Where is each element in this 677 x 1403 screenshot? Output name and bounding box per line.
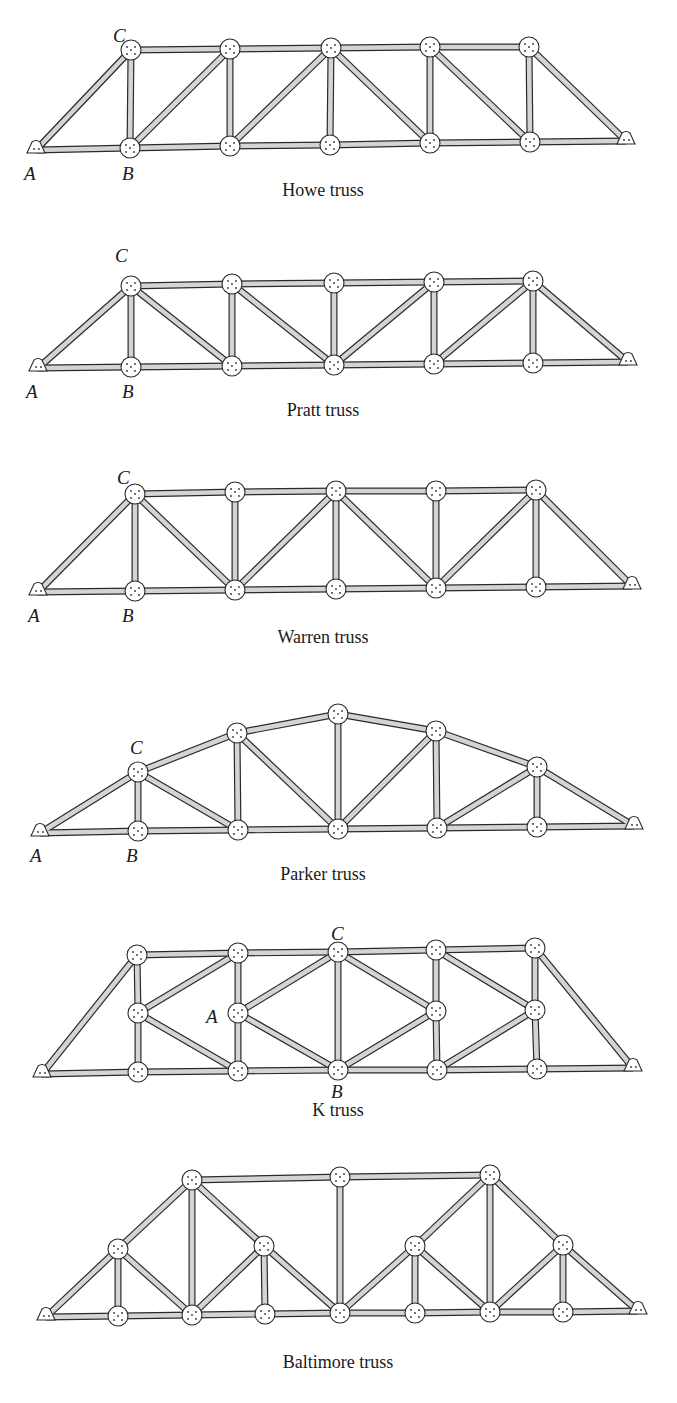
rivet-icon xyxy=(130,497,132,499)
truss-member xyxy=(415,1312,490,1313)
truss-member xyxy=(131,49,230,50)
rivet-icon xyxy=(234,491,236,493)
rivet-icon xyxy=(437,285,439,287)
rivet-icon xyxy=(539,583,541,585)
rivet-icon xyxy=(233,45,235,47)
rivet-icon xyxy=(241,956,243,958)
rivet-icon xyxy=(121,1245,123,1247)
truss-member xyxy=(46,1249,118,1317)
rivet-icon xyxy=(40,366,42,368)
rivet-icon xyxy=(326,51,328,53)
truss-member xyxy=(192,1177,340,1180)
truss-member xyxy=(437,1010,535,1070)
truss-member xyxy=(537,767,634,826)
rivet-icon xyxy=(137,1012,139,1014)
rivet-icon xyxy=(141,775,143,777)
rivet-icon xyxy=(528,359,530,361)
rivet-icon xyxy=(437,367,439,369)
rivet-icon xyxy=(241,1009,243,1011)
truss-member xyxy=(537,1068,633,1069)
rivet-icon xyxy=(533,145,535,147)
rivet-icon xyxy=(341,1066,343,1068)
truss-member xyxy=(434,281,533,364)
node-label-c: C xyxy=(117,467,130,488)
rivet-icon xyxy=(331,487,333,489)
truss-member xyxy=(238,829,338,830)
rivet-icon xyxy=(134,370,136,372)
rivet-icon xyxy=(533,138,535,140)
rivet-icon xyxy=(436,827,438,829)
rivet-icon xyxy=(137,771,139,773)
truss-member xyxy=(533,362,628,363)
rivet-icon xyxy=(241,1074,243,1076)
rivet-icon xyxy=(433,139,435,141)
rivet-icon xyxy=(630,360,632,362)
rivet-icon xyxy=(343,1173,345,1175)
rivet-icon xyxy=(337,279,339,281)
rivet-icon xyxy=(234,589,236,591)
rivet-icon xyxy=(439,953,441,955)
truss-member xyxy=(434,281,533,282)
rivet-icon xyxy=(264,1313,266,1315)
rivet-icon xyxy=(260,1317,262,1319)
rivet-icon xyxy=(195,1183,197,1185)
parker-truss: ABCParker truss xyxy=(28,704,643,884)
truss-member xyxy=(530,141,626,142)
rivet-icon xyxy=(133,1068,135,1070)
truss-member xyxy=(415,1246,490,1312)
rivet-icon xyxy=(113,1319,115,1321)
rivet-icon xyxy=(187,1183,189,1185)
rivet-icon xyxy=(538,1006,540,1008)
rivet-icon xyxy=(141,1075,143,1077)
node-label-b: B xyxy=(331,1081,343,1102)
node-label-b: B xyxy=(126,845,138,866)
rivet-icon xyxy=(126,363,128,365)
rivet-icon xyxy=(538,951,540,953)
rivet-icon xyxy=(187,1318,189,1320)
rivet-icon xyxy=(335,588,337,590)
rivet-icon xyxy=(195,1311,197,1313)
rivet-icon xyxy=(337,1069,339,1071)
members xyxy=(38,490,632,592)
rivet-icon xyxy=(341,717,343,719)
truss-member xyxy=(336,588,436,589)
rivet-icon xyxy=(339,592,341,594)
rivet-icon xyxy=(628,139,630,141)
rivet-icon xyxy=(425,43,427,45)
rivet-icon xyxy=(134,590,136,592)
rivet-icon xyxy=(229,145,231,147)
rivet-icon xyxy=(540,823,542,825)
rivet-icon xyxy=(230,593,232,595)
rivet-icon xyxy=(439,487,441,489)
truss-member xyxy=(192,1314,265,1315)
rivet-icon xyxy=(433,363,435,365)
rivet-icon xyxy=(191,1314,193,1316)
rivet-icon xyxy=(634,584,636,586)
rivet-icon xyxy=(126,46,128,48)
truss-member xyxy=(436,731,537,767)
truss-member xyxy=(430,142,530,143)
rivet-icon xyxy=(341,948,343,950)
rivet-icon xyxy=(566,1308,568,1310)
rivet-icon xyxy=(493,1178,495,1180)
truss-member xyxy=(340,1175,490,1177)
rivet-icon xyxy=(333,1073,335,1075)
rivet-icon xyxy=(536,826,538,828)
truss-member xyxy=(130,146,230,148)
rivet-icon xyxy=(225,142,227,144)
rivet-icon xyxy=(225,45,227,47)
rivet-icon xyxy=(493,1308,495,1310)
truss-member xyxy=(38,286,131,368)
rivet-icon xyxy=(326,44,328,46)
rivet-icon xyxy=(133,834,135,836)
rivet-icon xyxy=(425,146,427,148)
rivet-icon xyxy=(259,1242,261,1244)
rivet-icon xyxy=(524,50,526,52)
rivet-icon xyxy=(429,46,431,48)
truss-member xyxy=(130,49,230,148)
rivet-icon xyxy=(325,141,327,143)
rivet-icon xyxy=(233,1067,235,1069)
truss-member xyxy=(537,826,634,827)
rivet-icon xyxy=(343,1180,345,1182)
rivet-icon xyxy=(528,366,530,368)
